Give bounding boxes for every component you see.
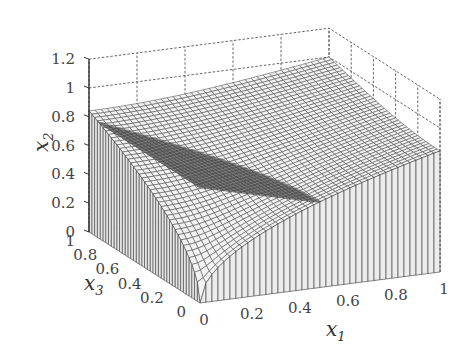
- surface-side-cell: [302, 208, 308, 290]
- surface-side-cell: [416, 158, 422, 275]
- surface-side-cell: [153, 194, 156, 275]
- surface-side-cell: [272, 224, 278, 294]
- surface-side-cell: [125, 156, 128, 257]
- surface-side-cell: [117, 145, 120, 252]
- surface-side-cell: [136, 170, 139, 264]
- x2-tick-mark: [84, 201, 89, 203]
- surface-side-cell: [230, 251, 236, 299]
- surface-side-cell: [344, 188, 350, 285]
- x2-tick-label: 1: [65, 79, 75, 97]
- surface-side-cell: [320, 199, 326, 288]
- surface-side-cell: [183, 245, 186, 294]
- surface-side-cell: [368, 177, 374, 281]
- surface-side-cell: [120, 148, 123, 253]
- surface-side-cell: [290, 214, 296, 291]
- x2-tick-mark: [84, 230, 89, 232]
- surface-side-cell: [169, 220, 172, 285]
- x3-tick-label: 1: [65, 232, 75, 250]
- surface-side-cell: [314, 202, 320, 288]
- surface-side-cell: [164, 211, 167, 282]
- x1-tick-label: 0.6: [336, 292, 360, 310]
- surface-side-cell: [133, 167, 136, 263]
- surface-side-cell: [95, 118, 98, 238]
- surface-side-cell: [92, 114, 95, 235]
- surface-side-cell: [356, 183, 362, 283]
- surface-side-cell: [156, 198, 159, 276]
- surface-side-cell: [284, 217, 290, 292]
- surface-side-cell: [410, 160, 416, 276]
- x3-tick-label: 0.2: [140, 289, 164, 307]
- surface-side-cell: [248, 239, 254, 297]
- surface-side-cell: [392, 167, 398, 278]
- x2-tick-label: 0.2: [51, 194, 75, 212]
- x1-tick-label: 1: [439, 280, 449, 298]
- surface-side-cell: [434, 151, 440, 273]
- surface-side-cell: [296, 211, 302, 291]
- x3-tick-label: 0.4: [118, 275, 142, 293]
- surface-side-cell: [114, 141, 117, 249]
- surface-side-cell: [428, 153, 434, 273]
- surface-side-cell: [380, 172, 386, 279]
- surface-side-cell: [308, 205, 314, 289]
- surface-side-cell: [97, 121, 100, 239]
- surface-side-cell: [186, 251, 189, 296]
- x2-tick-label: 0.8: [51, 108, 75, 126]
- surface-side-cell: [147, 186, 150, 271]
- x1-tick-label: 0.8: [384, 286, 408, 304]
- surface-side-cell: [106, 131, 109, 244]
- surface-side-cell: [142, 178, 145, 268]
- x2-tick-mark: [84, 144, 89, 146]
- surface-side-cell: [172, 225, 175, 287]
- surface-side-cell: [150, 190, 153, 273]
- surface-side-cell: [398, 165, 404, 277]
- surface-side-cell: [404, 163, 410, 277]
- surface-side-cell: [278, 221, 284, 293]
- surface-side-cell: [145, 182, 148, 269]
- x1-tick-label: 0.4: [288, 299, 312, 317]
- surface-side-cell: [236, 247, 242, 298]
- surface-side-cell: [254, 235, 260, 296]
- surface-side-cell: [350, 185, 356, 283]
- surface-side-cell: [139, 174, 142, 266]
- surface-side-cell: [362, 180, 368, 282]
- surface-side-cell: [326, 196, 332, 287]
- surface-side-cell: [161, 207, 164, 280]
- surface-side-cell: [266, 227, 272, 294]
- surface-side-cell: [158, 202, 161, 278]
- surface-side-cell: [374, 175, 380, 281]
- surface-side-cell: [181, 240, 184, 292]
- x1-axis-label: x1: [326, 317, 346, 344]
- surface-side-cell: [332, 193, 338, 286]
- surface-side-cell: [175, 230, 178, 289]
- x2-tick-mark: [84, 57, 89, 59]
- surface-side-cell: [122, 152, 125, 255]
- x2-tick-label: 0.4: [51, 165, 75, 183]
- surface-side-cell: [260, 231, 266, 295]
- surface-side-cell: [386, 170, 392, 279]
- x2-tick-mark: [84, 115, 89, 117]
- surface-side-cell: [218, 262, 224, 301]
- x3-tick-label: 0.6: [96, 260, 120, 278]
- surface-side-cell: [111, 138, 114, 248]
- x3-tick-label: 0.8: [73, 246, 97, 264]
- surface-plot: 00.20.40.60.811.200.20.40.60.8100.20.40.…: [0, 0, 471, 356]
- x2-tick-mark: [84, 172, 89, 174]
- surface-side-cell: [178, 235, 181, 291]
- surface-side-cell: [167, 215, 170, 283]
- x1-tick-label: 0.2: [240, 305, 264, 323]
- surface-side-cell: [224, 256, 230, 300]
- x3-tick-label: 0: [176, 303, 186, 321]
- surface-side-cell: [131, 163, 134, 261]
- surface-side-cell: [189, 258, 192, 298]
- x2-tick-label: 1.2: [51, 50, 75, 68]
- x1-tick-label: 0: [199, 311, 209, 329]
- surface-side-cell: [108, 134, 111, 246]
- x2-tick-mark: [84, 86, 89, 88]
- surface-side-cell: [242, 243, 248, 298]
- surface-side-cell: [100, 124, 103, 241]
- surface-side-cell: [103, 128, 106, 243]
- surface-side-cell: [338, 191, 344, 286]
- surface-side-cell: [128, 159, 131, 258]
- surface-side-cell: [422, 156, 428, 275]
- x2-axis-label: x2: [29, 132, 56, 152]
